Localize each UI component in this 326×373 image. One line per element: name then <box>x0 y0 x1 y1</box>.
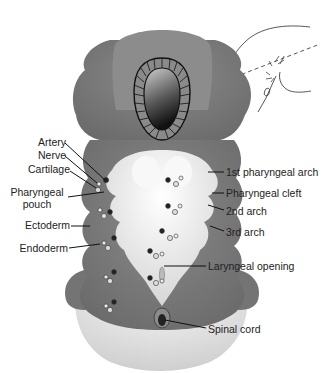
label-artery: Artery <box>18 136 66 148</box>
label-2nd-arch: 2nd arch <box>226 205 267 217</box>
label-pharyngeal-pouch-line2: pouch <box>4 198 70 210</box>
label-endoderm: Endoderm <box>4 242 68 254</box>
label-laryngeal-opening: Laryngeal opening <box>208 260 294 272</box>
label-nerve: Nerve <box>18 149 66 161</box>
label-pharyngeal-cleft: Pharyngeal cleft <box>226 187 301 199</box>
label-pharyngeal-pouch-line1: Pharyngeal <box>4 186 70 198</box>
label-pharyngeal-pouch: Pharyngeal pouch <box>4 186 70 210</box>
spinal-cord <box>154 308 170 328</box>
label-1st-pharyngeal-arch: 1st pharyngeal arch <box>226 166 318 178</box>
label-cartilage: Cartilage <box>10 163 70 175</box>
label-ectoderm: Ectoderm <box>8 219 70 231</box>
label-spinal-cord: Spinal cord <box>208 323 261 335</box>
label-3rd-arch: 3rd arch <box>226 226 265 238</box>
